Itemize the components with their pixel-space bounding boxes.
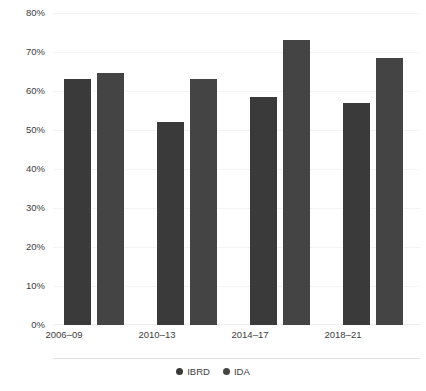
x-axis-tick-label-2010-13: 2010–13 xyxy=(113,329,201,341)
bar-ida-2018-21[interactable] xyxy=(376,58,403,325)
bar-group-2018-21 xyxy=(343,13,403,325)
x-axis-tick-label-2006-09: 2006–09 xyxy=(20,329,108,341)
x-axis-tick-label-2014-17: 2014–17 xyxy=(206,329,294,341)
y-axis-tick-label: 60% xyxy=(5,86,45,96)
y-axis-tick-label: 30% xyxy=(5,203,45,213)
bar-ibrd-2018-21[interactable] xyxy=(343,103,370,325)
y-axis-tick-label: 70% xyxy=(5,47,45,57)
y-axis-tick-label: 40% xyxy=(5,164,45,174)
circle-dot-icon xyxy=(176,368,183,375)
chart-legend: IBRD IDA xyxy=(0,366,426,377)
bar-ibrd-2006-09[interactable] xyxy=(64,79,91,325)
legend-label-ibrd: IBRD xyxy=(187,366,210,377)
bar-ibrd-2014-17[interactable] xyxy=(250,97,277,325)
legend-separator xyxy=(53,358,420,359)
y-axis-tick-label: 50% xyxy=(5,125,45,135)
legend-item-ibrd[interactable]: IBRD xyxy=(176,366,210,377)
bar-group-2010-13 xyxy=(157,13,217,325)
y-axis-tick-label: 10% xyxy=(5,281,45,291)
bar-ibrd-2010-13[interactable] xyxy=(157,122,184,325)
legend-label-ida: IDA xyxy=(234,366,250,377)
bar-ida-2006-09[interactable] xyxy=(97,73,124,325)
x-axis-tick-label-2018-21: 2018–21 xyxy=(299,329,387,341)
plot-area xyxy=(53,13,420,325)
bar-group-2006-09 xyxy=(64,13,124,325)
bar-group-2014-17 xyxy=(250,13,310,325)
legend-item-ida[interactable]: IDA xyxy=(223,366,250,377)
bar-ida-2014-17[interactable] xyxy=(283,40,310,325)
y-axis-tick-label: 20% xyxy=(5,242,45,252)
y-axis-tick-label: 80% xyxy=(5,8,45,18)
circle-dot-icon xyxy=(223,368,230,375)
bar-ida-2010-13[interactable] xyxy=(190,79,217,325)
bar-chart: 80% 70% 60% 50% 40% 30% 20% 10% 0% xyxy=(0,0,426,391)
